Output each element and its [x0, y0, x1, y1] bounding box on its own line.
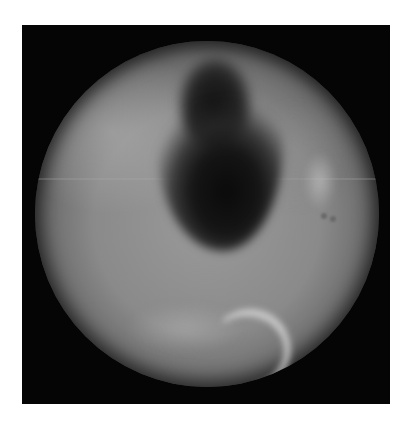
speck: [330, 216, 336, 222]
bright-reflection-right: [303, 151, 337, 211]
dark-cavity: [157, 81, 283, 251]
endoscopic-view: [35, 41, 379, 387]
speck: [321, 213, 327, 219]
image-frame: [22, 25, 390, 404]
